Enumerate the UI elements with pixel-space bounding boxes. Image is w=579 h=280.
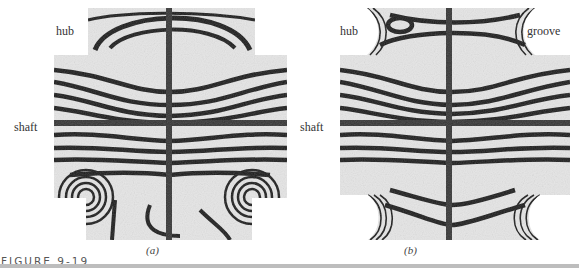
sublabel-b: (b)	[404, 244, 417, 256]
label-groove-b: groove	[527, 24, 560, 39]
label-shaft-a: shaft	[14, 120, 37, 135]
caption-rule	[0, 264, 579, 268]
label-shaft-b: shaft	[300, 120, 323, 135]
sublabel-a: (a)	[146, 244, 159, 256]
photoelastic-panel-a: hub shaft (a)	[0, 0, 290, 250]
photoelastic-panel-b: hub groove shaft (b)	[290, 0, 579, 250]
fringe-image-a	[0, 0, 290, 250]
label-hub-a: hub	[56, 24, 74, 39]
label-hub-b: hub	[340, 24, 358, 39]
